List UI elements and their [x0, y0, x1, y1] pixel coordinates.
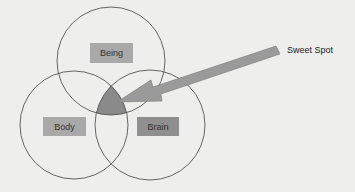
sweet-spot-arrow-icon — [117, 46, 280, 102]
sweet-spot-callout: Sweet Spot — [287, 45, 333, 55]
label-brain-text: Brain — [147, 122, 168, 132]
label-being: Being — [90, 43, 133, 63]
label-brain: Brain — [137, 117, 179, 136]
venn-diagram: Being Body Brain Sweet Spot — [0, 0, 355, 192]
label-body: Body — [43, 117, 86, 136]
label-being-text: Being — [100, 48, 123, 58]
venn-graphic — [0, 0, 355, 192]
label-body-text: Body — [54, 122, 75, 132]
